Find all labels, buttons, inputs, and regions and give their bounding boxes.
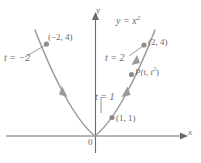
point-label-P: P(t, t2) (135, 66, 159, 77)
point-label-P-text: P(t, t (135, 67, 153, 77)
point-label-2-4: (2, 4) (148, 38, 168, 47)
curve-equation-text: y = x (116, 15, 137, 26)
curve-equation-label: y = x2 (116, 15, 140, 26)
y-axis-label: y (96, 6, 100, 15)
point-marker-P (129, 72, 134, 77)
origin-label: 0 (88, 138, 93, 147)
figure-canvas (0, 0, 201, 163)
parameter-label-t-1: t = 1 (95, 92, 115, 102)
point-marker-1-1 (109, 115, 114, 120)
parameter-label-t-neg2: t = −2 (4, 53, 30, 63)
parametric-parabola-figure: y x 0 y = x2 (−2, 4) (2, 4) (1, 1) P(t, … (0, 0, 201, 163)
point-label-P-close: ) (156, 67, 159, 77)
point-label-neg2-4: (−2, 4) (48, 33, 73, 42)
x-axis-label: x (188, 128, 192, 137)
point-label-1-1: (1, 1) (116, 114, 136, 123)
y-axis (92, 12, 99, 153)
direction-arrow-right-upper (132, 55, 141, 65)
leader-line-t-2 (129, 46, 143, 56)
parameter-label-t-2: t = 2 (105, 53, 125, 63)
curve-equation-exponent: 2 (137, 14, 140, 21)
